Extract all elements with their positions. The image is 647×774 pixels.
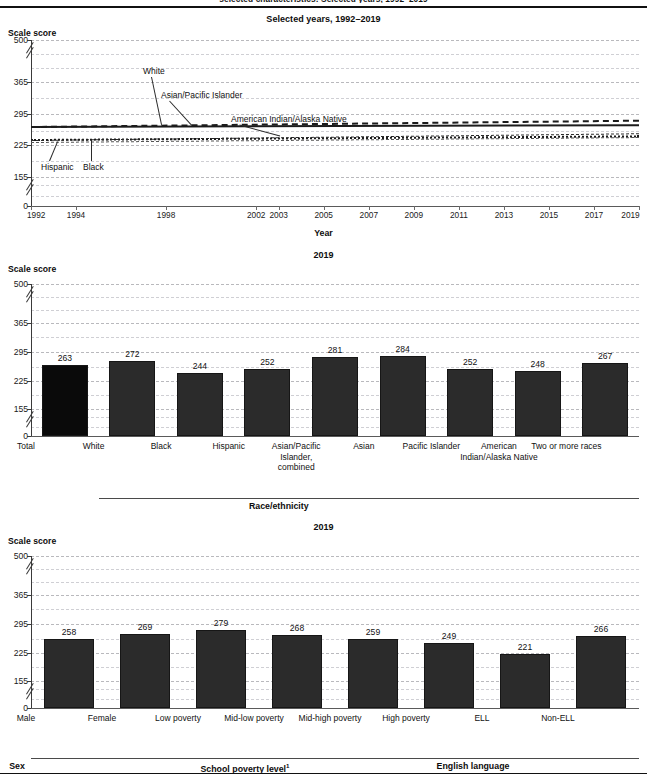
bar-hispanic: [244, 369, 290, 436]
bar-value-label: 252: [260, 357, 274, 367]
y-axis-tick-label: 225: [14, 648, 28, 658]
x-axis-tick-label: 2015: [540, 210, 558, 220]
y-axis-tick-label: 365: [14, 318, 28, 328]
bar-pacific-islander: [447, 369, 493, 436]
bar-category-label: Mid-low poverty: [211, 713, 297, 724]
bar-value-label: 268: [290, 623, 304, 633]
callout-label-hispanic: Hispanic: [41, 162, 74, 172]
bar-value-label: 267: [598, 351, 612, 361]
panel1-xlabel: Year: [0, 228, 647, 238]
x-axis-tick-label: 2019: [621, 210, 639, 220]
bar-category-label: Non-ELL: [515, 713, 601, 724]
gridline-major: [31, 82, 639, 83]
bar-male: [44, 639, 94, 708]
bar-category-label: Female: [59, 713, 145, 724]
y-axis-break-1: [26, 44, 38, 57]
bar-ell: [500, 654, 550, 708]
group-label-0: Sex: [0, 761, 107, 772]
gridline-minor: [31, 68, 639, 69]
bar-female: [120, 634, 170, 708]
group-rule-0: [31, 758, 183, 759]
bar-american-indian-alaska-native: [515, 371, 561, 436]
panel-race-bar-chart: 2019 Scale score 0155225295365500263Tota…: [0, 248, 647, 520]
bar-asian-pacific-islander-combined: [312, 357, 358, 436]
gridline-minor: [31, 185, 639, 186]
bar-category-label: ELL: [439, 713, 525, 724]
bar-category-label: Pacific Islander: [393, 441, 471, 452]
panel2-plot-area: 0155225295365500263Total272White244Black…: [31, 284, 639, 436]
bar-total: [42, 365, 88, 436]
x-axis-tick-label: 1998: [157, 210, 175, 220]
y-axis-break-2: [26, 413, 38, 426]
bar-value-label: 252: [463, 357, 477, 367]
bar-category-label: Asian: [325, 441, 403, 452]
y-axis-break-2: [26, 685, 38, 698]
x-axis-tick-label: 2009: [405, 210, 423, 220]
gridline-major: [31, 284, 639, 285]
x-axis-line: [31, 206, 639, 207]
y-axis-tick-label: 365: [14, 77, 28, 87]
callout-leader-line: [91, 140, 92, 161]
bar-value-label: 281: [328, 345, 342, 355]
figure-page: selected characteristics: Selected years…: [0, 0, 647, 774]
gridline-minor: [31, 297, 639, 298]
bar-mid-low-poverty: [272, 635, 322, 708]
bar-value-label: 221: [518, 642, 532, 652]
gridline-major: [31, 323, 639, 324]
callout-label-american-indian-alaska-native: American Indian/Alaska Native: [231, 114, 347, 124]
bar-low-poverty: [196, 630, 246, 708]
group-label-0: Race/ethnicity: [189, 501, 369, 512]
y-axis-break-2: [26, 181, 38, 194]
panel1-title: Selected years, 1992–2019: [0, 14, 647, 24]
x-axis-tick-label: 2002: [247, 210, 265, 220]
gridline-minor: [31, 54, 639, 55]
panel3-plot-area: 0155225295365500258Male269Female279Low p…: [31, 556, 639, 708]
bar-value-label: 259: [366, 627, 380, 637]
gridline-major: [31, 624, 639, 625]
group-rule-0: [99, 498, 639, 499]
panel-line-chart: Selected years, 1992–2019 Scale score 01…: [0, 0, 647, 250]
bar-category-label: Two or more races: [528, 441, 606, 452]
gridline-minor: [31, 569, 639, 570]
gridline-minor: [31, 196, 639, 197]
gridline-minor: [31, 337, 639, 338]
y-axis-tick-label: 225: [14, 376, 28, 386]
callout-label-white: White: [143, 66, 165, 76]
panel3-title: 2019: [0, 522, 647, 532]
bar-non-ell: [576, 636, 626, 708]
bar-category-label: Asian/Pacific Islander, combined: [257, 441, 335, 473]
x-axis-line: [31, 436, 639, 437]
y-axis-tick-label: 225: [14, 140, 28, 150]
y-axis-tick-label: 295: [14, 619, 28, 629]
group-rule-1: [183, 758, 487, 759]
panel2-ylabel: Scale score: [8, 264, 56, 274]
gridline-minor: [31, 131, 639, 132]
bar-value-label: 258: [62, 627, 76, 637]
gridline-minor: [31, 98, 639, 99]
y-axis-break-1: [26, 560, 38, 573]
gridline-major: [31, 40, 639, 41]
bar-value-label: 244: [193, 361, 207, 371]
panel-demographic-bar-chart: 2019 Scale score 0155225295365500258Male…: [0, 520, 647, 774]
x-axis-tick-label: 1994: [67, 210, 85, 220]
y-axis-tick-label: 365: [14, 590, 28, 600]
bar-category-label: Mid-high poverty: [287, 713, 373, 724]
bar-value-label: 284: [395, 344, 409, 354]
gridline-major: [31, 595, 639, 596]
bar-white: [109, 361, 155, 436]
bar-two-or-more-races: [582, 363, 628, 436]
callout-label-asian-pacific-islander: Asian/Pacific Islander: [161, 90, 242, 100]
y-axis-tick-label: 295: [14, 347, 28, 357]
gridline-major: [31, 177, 639, 178]
bar-category-label: Low poverty: [135, 713, 221, 724]
bar-mid-high-poverty: [348, 639, 398, 709]
gridline-minor: [31, 609, 639, 610]
bar-high-poverty: [424, 643, 474, 708]
gridline-major: [31, 556, 639, 557]
gridline-minor: [31, 310, 639, 311]
x-axis-tick-label: 2011: [450, 210, 468, 220]
y-axis-tick-label: 295: [14, 109, 28, 119]
gridline-major: [31, 145, 639, 146]
gridline-minor: [31, 582, 639, 583]
panel2-title: 2019: [0, 250, 647, 260]
